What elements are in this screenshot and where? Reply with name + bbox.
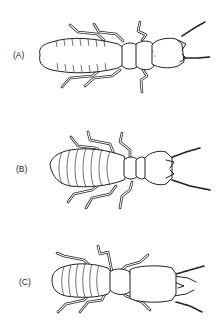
insect-b: (B)	[16, 132, 210, 208]
abdomen-b	[50, 149, 126, 187]
label-b: (B)	[16, 164, 28, 174]
termite-castes-diagram: (A) (B)	[0, 0, 224, 320]
insect-c: (C)	[19, 246, 204, 312]
abdomen-c	[52, 264, 112, 297]
insect-a: (A)	[13, 22, 210, 92]
abdomen-a	[40, 38, 124, 72]
head-a	[152, 38, 184, 67]
head-b	[145, 151, 172, 185]
head-c	[130, 266, 176, 302]
label-c: (C)	[19, 277, 31, 287]
label-a: (A)	[13, 50, 25, 60]
